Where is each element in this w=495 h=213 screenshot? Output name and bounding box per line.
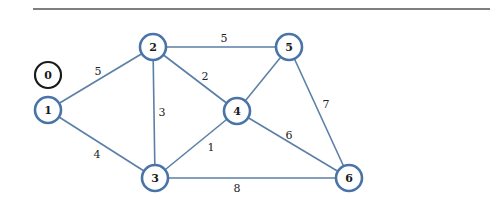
node-1: 1: [35, 97, 61, 123]
edge-weight-2-5: 5: [221, 32, 228, 45]
edge-5-6: [289, 47, 349, 178]
node-label: 5: [285, 41, 293, 54]
node-4: 4: [224, 98, 250, 124]
node-6: 6: [336, 165, 362, 191]
graph-diagram: 545231867 0123456: [0, 0, 495, 213]
edge-1-2: [48, 47, 153, 110]
node-0: 0: [35, 62, 61, 88]
node-2: 2: [140, 34, 166, 60]
node-label: 1: [44, 104, 52, 117]
node-label: 0: [44, 69, 52, 82]
node-label: 4: [233, 105, 241, 118]
edge-weight-3-6: 8: [234, 182, 241, 195]
edge-4-6: [237, 111, 349, 178]
edge-weight-1-2: 5: [95, 65, 102, 78]
edge-weight-2-3: 3: [159, 106, 166, 119]
edge-weight-3-4: 1: [208, 141, 215, 154]
node-label: 6: [345, 172, 353, 185]
edge-2-4: [153, 47, 237, 111]
node-5: 5: [276, 34, 302, 60]
edge-weight-4-6: 6: [286, 129, 293, 142]
edge-weight-1-3: 4: [94, 148, 101, 161]
nodes-layer: 0123456: [35, 34, 362, 191]
edge-weight-2-4: 2: [202, 70, 209, 83]
edge-2-3: [153, 47, 155, 178]
edge-3-4: [155, 111, 237, 178]
edge-weight-5-6: 7: [323, 98, 330, 111]
node-label: 2: [149, 41, 157, 54]
node-3: 3: [142, 165, 168, 191]
edge-1-3: [48, 110, 155, 178]
node-label: 3: [151, 172, 159, 185]
